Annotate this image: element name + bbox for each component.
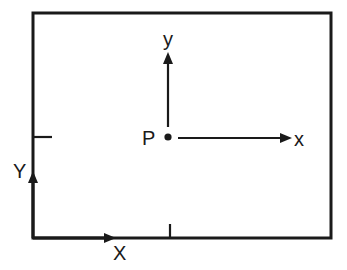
point-p-marker bbox=[164, 133, 171, 140]
global-y-label: Y bbox=[13, 160, 26, 182]
global-x-label: X bbox=[113, 242, 126, 264]
local-x-arrow bbox=[178, 133, 292, 143]
global-y-arrow bbox=[28, 171, 38, 238]
local-y-arrowhead-icon bbox=[163, 52, 173, 64]
local-x-arrowhead-icon bbox=[280, 133, 292, 143]
coordinate-frame-diagram: X Y P y x bbox=[0, 0, 347, 270]
local-y-label: y bbox=[163, 28, 173, 50]
point-p-label: P bbox=[142, 127, 155, 149]
global-x-arrow bbox=[33, 233, 116, 243]
local-y-arrow bbox=[163, 52, 173, 127]
global-y-arrowhead-icon bbox=[28, 171, 38, 183]
boundary-rectangle bbox=[33, 13, 331, 238]
local-x-label: x bbox=[294, 128, 304, 150]
